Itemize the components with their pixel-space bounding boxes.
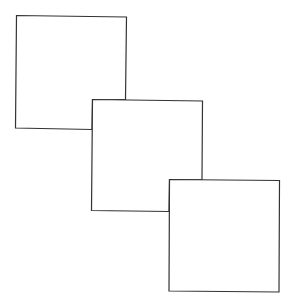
square-3 xyxy=(169,180,280,293)
overlapping-squares-diagram xyxy=(0,0,290,305)
